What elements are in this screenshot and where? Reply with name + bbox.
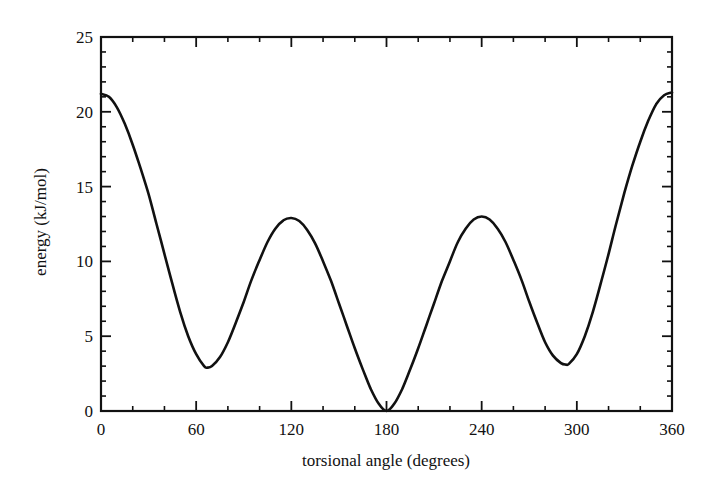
torsional-energy-chart: 060120180240300360 0510152025 torsional … <box>0 0 721 490</box>
x-tick-label: 180 <box>374 420 400 439</box>
y-axis-label: energy (kJ/mol) <box>31 168 50 276</box>
x-tick-label: 0 <box>97 420 106 439</box>
y-tick-label: 0 <box>85 402 94 421</box>
x-axis-label: torsional angle (degrees) <box>302 451 470 470</box>
x-tick-label: 120 <box>279 420 305 439</box>
y-tick-label: 25 <box>76 28 93 47</box>
y-tick-label: 5 <box>85 327 94 346</box>
x-tick-label: 360 <box>659 420 685 439</box>
y-tick-label: 20 <box>76 103 93 122</box>
x-tick-label: 240 <box>469 420 495 439</box>
y-tick-label: 15 <box>76 178 93 197</box>
x-tick-label: 60 <box>188 420 205 439</box>
y-tick-label: 10 <box>76 252 93 271</box>
chart-background <box>0 0 721 490</box>
x-tick-label: 300 <box>564 420 590 439</box>
